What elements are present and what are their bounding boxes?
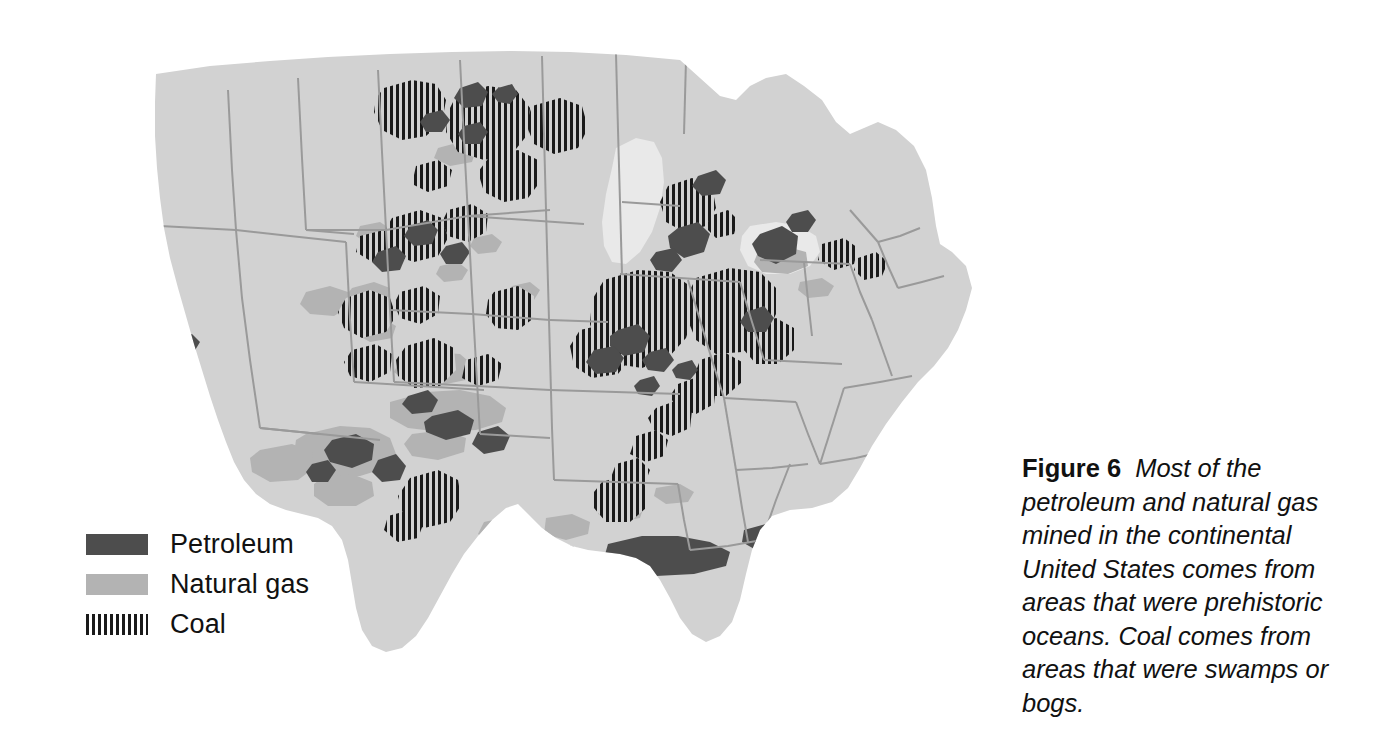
legend-label-petroleum: Petroleum [170,529,294,560]
figure-caption-text: Most of the petroleum and natural gas mi… [1022,454,1328,717]
coal-swatch-icon [86,614,148,635]
legend-item-petroleum: Petroleum [86,524,336,564]
legend-item-natural-gas: Natural gas [86,564,336,604]
figure-container: Petroleum Natural gas Coal Figure 6Most … [0,0,1395,756]
natural-gas-swatch-icon [86,574,148,595]
map-legend: Petroleum Natural gas Coal [86,524,336,644]
figure-caption: Figure 6Most of the petroleum and natura… [1022,452,1372,720]
legend-item-coal: Coal [86,604,336,644]
figure-label: Figure 6 [1022,454,1121,482]
legend-label-natural-gas: Natural gas [170,569,309,600]
legend-label-coal: Coal [170,609,226,640]
petroleum-swatch-icon [86,534,148,555]
